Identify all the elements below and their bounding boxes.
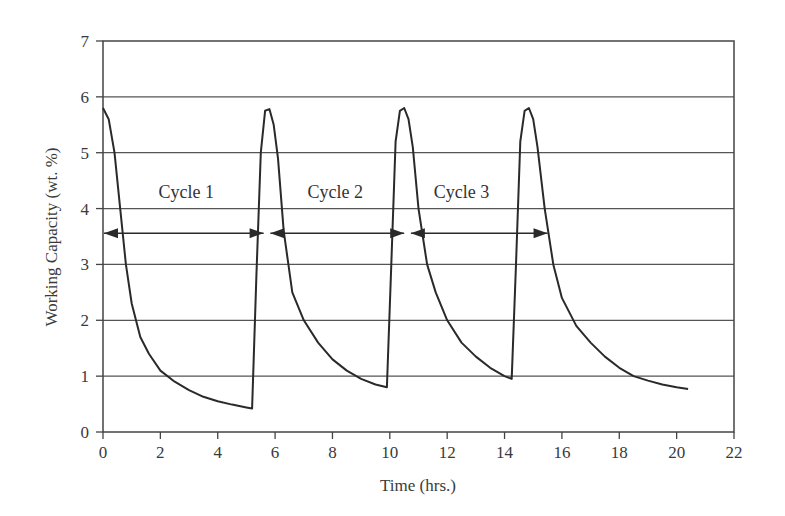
arrowhead-left-icon <box>411 228 425 238</box>
y-tick-label: 4 <box>81 200 90 219</box>
y-axis-ticks: 01234567 <box>81 32 104 442</box>
x-tick-label: 2 <box>156 443 165 462</box>
x-tick-label: 0 <box>99 443 108 462</box>
x-axis-ticks: 0246810121416182022 <box>99 432 743 462</box>
x-tick-label: 20 <box>668 443 685 462</box>
y-axis-title: Working Capacity (wt. %) <box>42 148 61 327</box>
arrowhead-right-icon <box>390 228 404 238</box>
plot-border <box>103 41 734 432</box>
arrowhead-right-icon <box>250 228 264 238</box>
x-tick-label: 14 <box>496 443 514 462</box>
x-tick-label: 8 <box>328 443 337 462</box>
y-tick-label: 7 <box>81 32 90 51</box>
x-tick-label: 18 <box>611 443 628 462</box>
x-tick-label: 12 <box>439 443 456 462</box>
arrowhead-left-icon <box>104 228 118 238</box>
cycle-label: Cycle 3 <box>434 182 490 202</box>
cycle-label: Cycle 2 <box>308 182 364 202</box>
y-tick-label: 3 <box>81 255 90 274</box>
x-tick-label: 4 <box>213 443 222 462</box>
grid-lines <box>103 97 734 376</box>
chart-canvas: 0246810121416182022 01234567 Cycle 1Cycl… <box>0 0 785 516</box>
y-tick-label: 2 <box>81 311 90 330</box>
x-tick-label: 6 <box>271 443 280 462</box>
y-tick-label: 6 <box>81 88 90 107</box>
y-tick-label: 5 <box>81 144 90 163</box>
cycle-annotations: Cycle 1Cycle 2Cycle 3 <box>104 182 548 238</box>
y-tick-label: 0 <box>81 423 90 442</box>
arrowhead-right-icon <box>534 228 548 238</box>
y-tick-label: 1 <box>81 367 90 386</box>
x-axis-title: Time (hrs.) <box>380 476 456 495</box>
cycle-label: Cycle 1 <box>158 182 214 202</box>
plot-frame <box>103 41 734 432</box>
x-tick-label: 22 <box>726 443 743 462</box>
arrowhead-left-icon <box>270 228 284 238</box>
x-tick-label: 10 <box>381 443 398 462</box>
x-tick-label: 16 <box>553 443 570 462</box>
